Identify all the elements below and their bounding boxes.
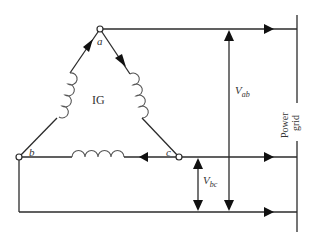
delta-induction-generator-diagram: a b c IG Vab Vbc Power grid	[0, 0, 322, 235]
voltage-vab-indicator	[224, 30, 234, 211]
vab-label: Vab	[235, 84, 250, 99]
coil-ac-icon	[130, 73, 148, 118]
vbc-label: Vbc	[203, 174, 218, 189]
node-c-label: c	[166, 146, 171, 158]
vbc-arrow-down-icon	[193, 200, 203, 211]
arrow-up-to-a-icon	[83, 39, 93, 52]
node-b	[16, 154, 22, 160]
coil-ab-icon	[59, 73, 77, 118]
generator-label: IG	[92, 93, 105, 107]
vbc-arrow-up-icon	[193, 158, 203, 169]
arrow-line-b-icon	[264, 207, 274, 217]
wire-coil-ab-to-b	[19, 118, 57, 157]
node-c	[176, 154, 182, 160]
winding-ac	[100, 29, 179, 157]
grid-label-line2: grid	[290, 115, 301, 131]
arrow-line-c-icon	[264, 152, 274, 162]
winding-ab	[19, 29, 100, 157]
arrow-left-icon	[139, 152, 148, 162]
node-b-label: b	[29, 146, 35, 158]
node-a-label: a	[97, 35, 103, 47]
wire-a-to-coil-ac	[100, 29, 130, 74]
vab-arrow-up-icon	[224, 30, 234, 41]
output-lines	[19, 24, 297, 217]
power-grid-label: Power grid	[279, 112, 301, 138]
coil-bc-icon	[72, 151, 124, 158]
wire-a-to-coil-ab	[70, 29, 100, 73]
winding-bc	[19, 151, 179, 163]
wire-coil-ac-to-c	[142, 118, 179, 157]
vab-arrow-down-icon	[224, 200, 234, 211]
voltage-vbc-indicator	[193, 158, 203, 211]
arrow-down-to-c-icon	[115, 54, 126, 67]
grid-label-line1: Power	[279, 112, 290, 138]
node-a	[97, 26, 103, 32]
arrow-line-a-icon	[264, 24, 274, 34]
